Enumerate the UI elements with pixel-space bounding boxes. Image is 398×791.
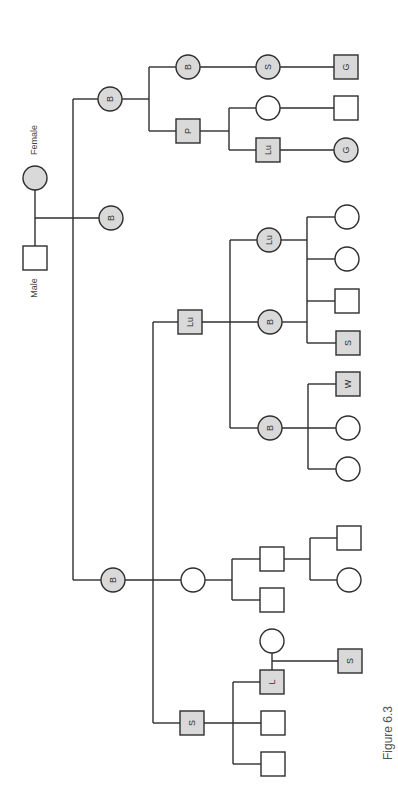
male-square-icon	[260, 547, 284, 571]
node-label: Lu	[264, 235, 274, 245]
female-node	[336, 457, 360, 481]
female-circle-icon	[337, 568, 361, 592]
node-label: W	[343, 379, 353, 388]
female-circle-icon	[336, 416, 360, 440]
male-square-icon	[261, 711, 285, 735]
male-node-affected: S	[180, 711, 204, 735]
female-node-affected: B	[101, 568, 125, 592]
female-node	[335, 205, 359, 229]
female-circle-icon	[335, 247, 359, 271]
female-node	[336, 416, 360, 440]
node-label: Lu	[185, 317, 195, 327]
male-node-affected: S	[336, 331, 360, 355]
male-node-affected: L	[260, 670, 284, 694]
node-label: S	[187, 720, 197, 726]
node-label: Lu	[263, 145, 273, 155]
male-node	[261, 711, 285, 735]
female-node	[335, 247, 359, 271]
node-label: B	[183, 64, 193, 70]
node-label: B	[265, 425, 275, 431]
male-node	[23, 246, 47, 270]
pedigree-nodes: BBBBPLuSSLuLuBBLGGSWS	[23, 55, 362, 776]
male-node-affected: G	[334, 55, 358, 79]
female-node-affected: S	[256, 55, 280, 79]
pedigree-connector-lines	[35, 67, 338, 764]
node-label: S	[343, 340, 353, 346]
node-label: G	[341, 63, 351, 70]
male-node	[335, 289, 359, 313]
legend-labels: Female Male	[29, 125, 39, 298]
node-label: B	[105, 96, 115, 102]
male-legend-label: Male	[29, 278, 39, 298]
female-circle-icon	[260, 629, 284, 653]
male-square-icon	[334, 96, 358, 120]
male-node-affected: Lu	[256, 138, 280, 162]
male-node	[260, 588, 284, 612]
female-node	[181, 568, 205, 592]
figure-caption: Figure 6.3	[381, 706, 395, 760]
node-label: B	[265, 319, 275, 325]
node-label: S	[263, 64, 273, 70]
node-label: B	[108, 577, 118, 583]
node-label: B	[106, 215, 116, 221]
male-square-icon	[260, 588, 284, 612]
female-node	[337, 568, 361, 592]
male-node-affected: S	[338, 649, 362, 673]
male-node-affected: P	[176, 119, 200, 143]
male-square-icon	[261, 752, 285, 776]
female-circle-icon	[23, 166, 47, 190]
female-node-affected: Lu	[257, 228, 281, 252]
male-node-affected: W	[336, 372, 360, 396]
female-circle-icon	[335, 205, 359, 229]
node-label: L	[267, 679, 277, 684]
female-node-affected: B	[98, 87, 122, 111]
female-circle-icon	[336, 457, 360, 481]
female-node-affected: B	[258, 310, 282, 334]
male-square-icon	[335, 289, 359, 313]
male-node	[260, 547, 284, 571]
female-node-affected: B	[176, 55, 200, 79]
node-label: S	[345, 658, 355, 664]
male-square-icon	[337, 526, 361, 550]
female-node-affected: B	[99, 206, 123, 230]
male-node	[337, 526, 361, 550]
female-circle-icon	[181, 568, 205, 592]
female-node-affected: B	[258, 416, 282, 440]
male-node	[261, 752, 285, 776]
male-square-icon	[23, 246, 47, 270]
female-legend-label: Female	[29, 125, 39, 155]
node-label: P	[183, 128, 193, 134]
pedigree-diagram: BBBBPLuSSLuLuBBLGGSWS Female Male Figure…	[0, 0, 398, 791]
female-node	[256, 96, 280, 120]
male-node	[334, 96, 358, 120]
female-node-affected	[23, 166, 47, 190]
female-node-affected: G	[334, 138, 358, 162]
female-node	[260, 629, 284, 653]
node-label: G	[341, 146, 351, 153]
male-node-affected: Lu	[178, 310, 202, 334]
female-circle-icon	[256, 96, 280, 120]
